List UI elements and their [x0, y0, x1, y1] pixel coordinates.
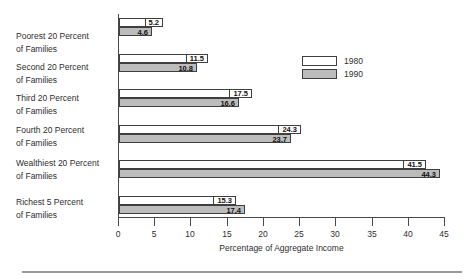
bar-value-label: 16.6	[220, 100, 235, 107]
bar-1980: 5.2	[119, 18, 157, 27]
x-tick	[444, 218, 445, 226]
x-tick-label: 40	[397, 229, 419, 239]
plot-area: 5.24.611.510.817.516.624.323.741.544.315…	[118, 14, 458, 217]
x-tick-label: 10	[179, 229, 201, 239]
x-axis-line	[118, 217, 445, 218]
x-tick-label: 5	[143, 229, 165, 239]
bar-value-label: 4.6	[138, 29, 148, 36]
bar-1980: 17.5	[119, 89, 246, 98]
bar-value-label: 44.3	[421, 171, 436, 178]
x-tick-label: 25	[288, 229, 310, 239]
category-label: Wealthiest 20 Percentof Families	[16, 157, 116, 183]
bar-1990: 10.8	[119, 63, 197, 72]
bottom-divider-rule	[22, 271, 462, 273]
bar-value-label: 15.3	[213, 196, 236, 205]
x-tick	[118, 218, 119, 226]
bar-1990: 16.6	[119, 98, 239, 107]
bar-value-label: 10.8	[178, 65, 193, 72]
bar-1990: 4.6	[119, 27, 152, 36]
legend-swatch-1980	[302, 56, 337, 66]
bar-1980: 11.5	[119, 54, 202, 63]
bar-value-label: 17.5	[229, 89, 252, 98]
income-distribution-bar-chart: 5.24.611.510.817.516.624.323.741.544.315…	[0, 0, 464, 279]
category-label: Poorest 20 Percentof Families	[16, 30, 116, 56]
bar-1990: 17.4	[119, 205, 245, 214]
legend-swatch-1990	[302, 69, 337, 79]
bar-1980: 24.3	[119, 125, 295, 134]
category-label: Third 20 Percentof Families	[16, 92, 116, 118]
bar-value-label: 23.7	[272, 136, 287, 143]
legend-label: 1980	[344, 56, 363, 66]
x-tick	[408, 218, 409, 226]
bar-value-label: 17.4	[226, 207, 241, 214]
bar-1990: 23.7	[119, 134, 291, 143]
x-tick	[190, 218, 191, 226]
x-tick-label: 30	[324, 229, 346, 239]
category-label: Second 20 Percentof Families	[16, 61, 116, 87]
bar-value-label: 11.5	[186, 54, 208, 63]
bar-1980: 41.5	[119, 160, 420, 169]
x-tick	[299, 218, 300, 226]
x-tick-label: 45	[433, 229, 455, 239]
x-tick-label: 35	[361, 229, 383, 239]
x-tick-label: 0	[107, 229, 129, 239]
bar-1990: 44.3	[119, 169, 440, 178]
bar-value-label: 5.2	[145, 18, 163, 27]
x-tick-label: 15	[216, 229, 238, 239]
bar-value-label: 24.3	[278, 125, 301, 134]
x-tick	[335, 218, 336, 226]
category-label: Fourth 20 Percentof Families	[16, 124, 116, 150]
legend-label: 1990	[344, 69, 363, 79]
bar-1980: 15.3	[119, 196, 230, 205]
category-label: Richest 5 Percentof Families	[16, 196, 116, 222]
x-tick-label: 20	[252, 229, 274, 239]
x-tick	[227, 218, 228, 226]
x-tick	[154, 218, 155, 226]
x-tick	[372, 218, 373, 226]
x-tick	[263, 218, 264, 226]
bar-value-label: 41.5	[403, 160, 426, 169]
x-axis-title: Percentage of Aggregate Income	[118, 243, 445, 253]
